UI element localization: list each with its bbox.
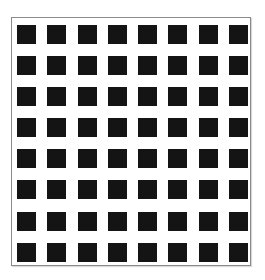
grid-square (78, 118, 97, 137)
grid-square (229, 87, 248, 106)
grid-square (17, 25, 36, 44)
grid-square (108, 243, 127, 262)
grid-square (199, 180, 218, 199)
grid-square (108, 56, 127, 75)
grid-square (47, 149, 66, 168)
grid-square (108, 87, 127, 106)
grid-square (78, 149, 97, 168)
grid-square (47, 56, 66, 75)
square-grid (17, 25, 248, 262)
grid-square (229, 180, 248, 199)
grid-square (17, 243, 36, 262)
grid-square (229, 243, 248, 262)
grid-square (199, 56, 218, 75)
grid-square (199, 149, 218, 168)
grid-square (199, 212, 218, 231)
grid-square (17, 212, 36, 231)
grid-square (168, 149, 187, 168)
grid-square (229, 118, 248, 137)
grid-square (78, 180, 97, 199)
grid-square (138, 180, 157, 199)
grid-square (78, 87, 97, 106)
grid-square (108, 212, 127, 231)
grid-square (78, 25, 97, 44)
grid-square (108, 149, 127, 168)
grid-square (78, 212, 97, 231)
grid-square (108, 118, 127, 137)
grid-square (138, 243, 157, 262)
grid-square (229, 212, 248, 231)
grid-square (17, 180, 36, 199)
grid-square (17, 87, 36, 106)
grid-square (168, 243, 187, 262)
grid-square (138, 25, 157, 44)
grid-square (199, 25, 218, 44)
grid-square (168, 25, 187, 44)
grid-frame (11, 17, 251, 266)
grid-square (168, 180, 187, 199)
grid-square (17, 149, 36, 168)
grid-square (168, 212, 187, 231)
grid-square (168, 56, 187, 75)
grid-square (47, 243, 66, 262)
grid-square (108, 25, 127, 44)
grid-square (168, 87, 187, 106)
grid-square (78, 243, 97, 262)
grid-square (138, 212, 157, 231)
grid-square (47, 118, 66, 137)
grid-square (108, 180, 127, 199)
grid-square (138, 149, 157, 168)
grid-square (229, 56, 248, 75)
grid-square (138, 56, 157, 75)
grid-square (47, 25, 66, 44)
grid-square (199, 243, 218, 262)
grid-square (229, 25, 248, 44)
grid-square (78, 56, 97, 75)
grid-square (47, 180, 66, 199)
grid-square (138, 118, 157, 137)
grid-square (17, 56, 36, 75)
grid-square (168, 118, 187, 137)
grid-square (138, 87, 157, 106)
grid-square (47, 87, 66, 106)
grid-square (199, 118, 218, 137)
grid-square (199, 87, 218, 106)
grid-square (47, 212, 66, 231)
grid-square (229, 149, 248, 168)
grid-square (17, 118, 36, 137)
